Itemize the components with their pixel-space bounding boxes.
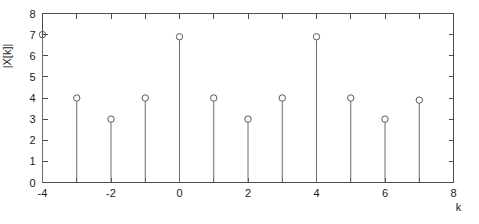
x-tick-label: -4 [38,187,48,199]
stem-plot-figure: -4-202468012345678k|X[k]| [0,0,479,224]
stem-marker [245,116,251,122]
y-tick-label: 3 [29,113,35,125]
x-tick-label: -2 [106,187,116,199]
y-tick-label: 1 [29,155,35,167]
stem-marker [382,116,388,122]
y-axis-title: |X[k]| [1,44,13,69]
stem-marker [348,95,354,101]
y-tick-label: 0 [29,177,35,189]
stem-marker [108,116,114,122]
stem-marker [211,95,217,101]
x-tick-label: 0 [176,187,182,199]
stem-marker [313,34,319,40]
y-tick-label: 8 [29,8,35,20]
x-tick-label: 6 [382,187,388,199]
stem-marker [142,95,148,101]
y-tick-label: 6 [29,50,35,62]
y-tick-label: 7 [29,29,35,41]
plot-canvas: -4-202468012345678k|X[k]| [0,0,479,224]
y-tick-label: 2 [29,134,35,146]
stem-marker [176,34,182,40]
x-tick-label: 4 [313,187,319,199]
stem-marker [416,97,422,103]
x-tick-label: 2 [245,187,251,199]
x-axis-title: k [456,201,462,213]
y-tick-label: 5 [29,71,35,83]
y-tick-label: 4 [29,92,35,104]
stem-marker [279,95,285,101]
x-tick-label: 8 [450,187,456,199]
stem-marker [74,95,80,101]
